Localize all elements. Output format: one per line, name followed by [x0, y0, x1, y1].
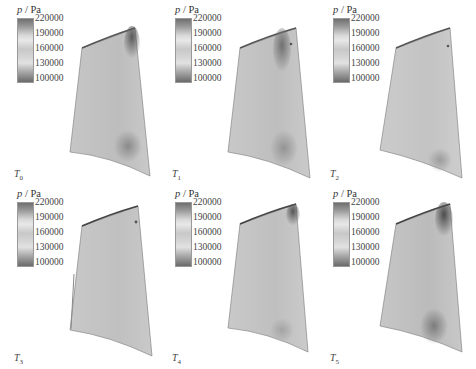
time-label: T4: [172, 352, 181, 366]
time-label: T3: [14, 352, 23, 366]
blade-contour: [218, 192, 314, 357]
panel-t0: p / Pa 220000 190000 160000 130000 10000…: [0, 0, 158, 184]
colorbar: [175, 202, 192, 267]
time-label: T1: [172, 168, 181, 182]
panel-t4: p / Pa 220000 190000 160000 130000 10000…: [158, 184, 316, 368]
time-label: T5: [330, 352, 339, 366]
colorbar: [17, 202, 34, 267]
panel-t3: p / Pa 220000 190000 160000 130000 10000…: [0, 184, 158, 368]
colorbar: [17, 18, 34, 83]
time-label: T2: [330, 168, 339, 182]
panel-t5: p / Pa 220000 190000 160000 130000 10000…: [316, 184, 474, 368]
panel-t1: p / Pa 220000 190000 160000 130000 10000…: [158, 0, 316, 184]
panel-t2: p / Pa 220000 190000 160000 130000 10000…: [316, 0, 474, 184]
colorbar: [175, 18, 192, 83]
blade-contour: [218, 16, 314, 181]
blade-contour: [372, 192, 468, 357]
colorbar: [333, 18, 350, 83]
blade-contour: [372, 16, 468, 181]
time-label: T0: [14, 168, 23, 182]
blade-contour: [60, 16, 156, 181]
blade-contour: [60, 194, 156, 359]
colorbar: [333, 202, 350, 267]
